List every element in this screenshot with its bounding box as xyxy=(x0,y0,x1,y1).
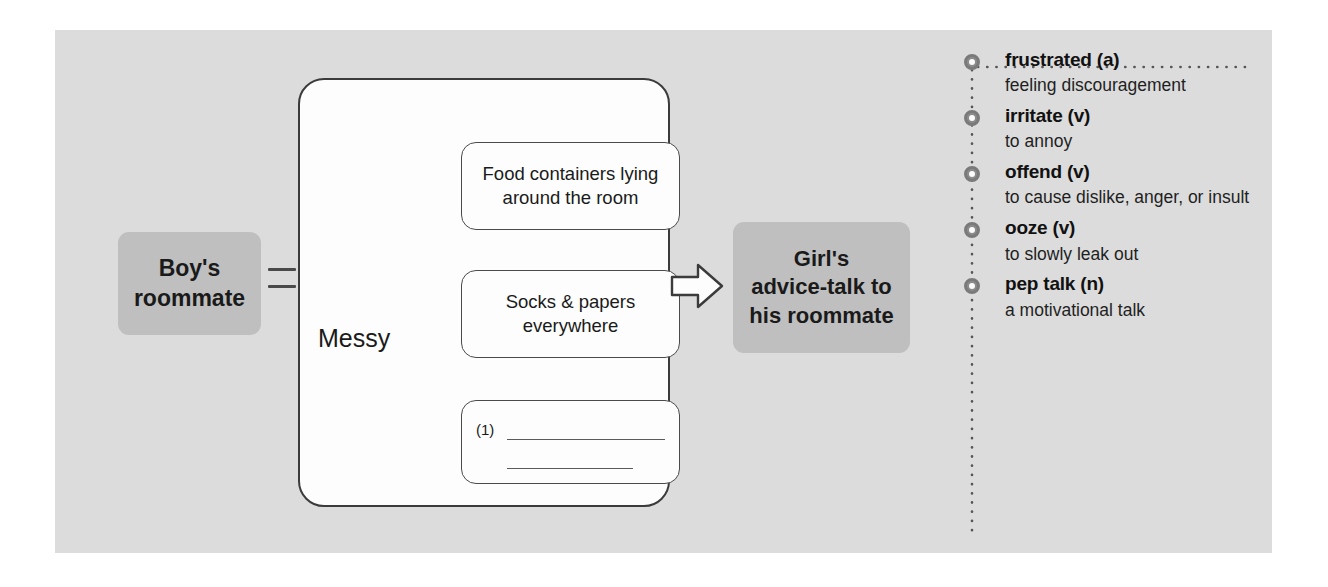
bullet-icon xyxy=(964,166,980,182)
result-box-line-1: Girl's xyxy=(749,245,893,273)
vocabulary-sidebar: frustrated (a) feeling discouragement ir… xyxy=(945,48,1255,532)
vocabulary-definition: to annoy xyxy=(1005,130,1255,153)
right-block-arrow-icon xyxy=(669,260,725,312)
answer-rule[interactable] xyxy=(507,468,633,469)
vocabulary-word: irritate (v) xyxy=(1005,104,1255,128)
result-box: Girl's advice-talk to his roommate xyxy=(733,222,910,353)
blank-number-label: (1) xyxy=(476,420,494,440)
list-item: frustrated (a) feeling discouragement xyxy=(945,48,1255,97)
vocabulary-word: ooze (v) xyxy=(1005,216,1255,240)
detail-box-line-1: Food containers lying xyxy=(483,162,659,186)
vocabulary-definition: to cause dislike, anger, or insult xyxy=(1005,186,1255,209)
topic-box-line-2: roommate xyxy=(134,284,245,313)
trait-container: Messy Food containers lying around the r… xyxy=(298,78,670,507)
detail-box: Food containers lying around the room xyxy=(461,142,680,230)
detail-box-line-2: around the room xyxy=(483,186,659,210)
vocabulary-word: offend (v) xyxy=(1005,160,1255,184)
list-item: irritate (v) to annoy xyxy=(945,104,1255,153)
topic-box: Boy's roommate xyxy=(118,232,261,335)
result-box-line-2: advice-talk to xyxy=(749,273,893,301)
bullet-icon xyxy=(964,54,980,70)
detail-box-line-1: Socks & papers xyxy=(506,290,636,314)
vocabulary-word: pep talk (n) xyxy=(1005,272,1255,296)
bullet-icon xyxy=(964,222,980,238)
equals-bar-bottom xyxy=(268,285,296,288)
answer-rule[interactable] xyxy=(507,439,665,440)
trait-label: Messy xyxy=(318,324,390,353)
vocabulary-definition: a motivational talk xyxy=(1005,299,1255,322)
topic-box-line-1: Boy's xyxy=(134,254,245,283)
equals-connector-icon xyxy=(268,268,296,296)
list-item: offend (v) to cause dislike, anger, or i… xyxy=(945,160,1255,209)
content-panel: Boy's roommate Messy Food containers lyi… xyxy=(55,30,1272,553)
equals-bar-top xyxy=(268,268,296,271)
vocabulary-list: frustrated (a) feeling discouragement ir… xyxy=(945,48,1255,328)
result-box-line-3: his roommate xyxy=(749,302,893,330)
detail-box: Socks & papers everywhere xyxy=(461,270,680,358)
detail-box-line-2: everywhere xyxy=(506,314,636,338)
blank-answer-box[interactable]: (1) xyxy=(461,400,680,484)
bullet-icon xyxy=(964,110,980,126)
list-item: ooze (v) to slowly leak out xyxy=(945,216,1255,265)
vocabulary-definition: to slowly leak out xyxy=(1005,243,1255,266)
vocabulary-word: frustrated (a) xyxy=(1005,48,1255,72)
bullet-icon xyxy=(964,278,980,294)
list-item: pep talk (n) a motivational talk xyxy=(945,272,1255,321)
vocabulary-definition: feeling discouragement xyxy=(1005,74,1255,97)
